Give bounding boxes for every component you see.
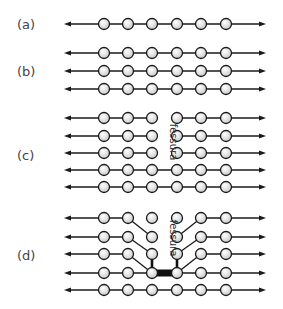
arrow-right-icon — [259, 271, 266, 276]
atom-circle — [99, 165, 110, 176]
atom-circle — [221, 113, 232, 124]
arrow-left-icon — [64, 151, 71, 156]
crack-label-d: fessura — [168, 220, 179, 257]
atom-circle — [99, 84, 110, 95]
panel-b — [64, 48, 266, 95]
atom-circle — [196, 84, 207, 95]
arrow-left-icon — [64, 22, 71, 27]
arrow-left-icon — [64, 51, 71, 56]
atom-circle — [221, 84, 232, 95]
atom-circle — [196, 148, 207, 159]
atom-circle — [147, 232, 158, 243]
arrow-right-icon — [259, 235, 266, 240]
arrow-left-icon — [64, 252, 71, 257]
arrow-right-icon — [259, 51, 266, 56]
arrow-left-icon — [64, 168, 71, 173]
arrow-left-icon — [64, 116, 71, 121]
atom-circle — [147, 66, 158, 77]
panel-d — [64, 213, 266, 296]
arrow-right-icon — [259, 288, 266, 293]
atom-circle — [99, 113, 110, 124]
atom-circle — [123, 84, 134, 95]
atom-circle — [196, 19, 207, 30]
atom-circle — [196, 232, 207, 243]
atom-circle — [147, 268, 158, 279]
atom-circle — [221, 232, 232, 243]
panel-c — [64, 113, 266, 193]
atom-circle — [123, 213, 134, 224]
atom-circle — [147, 84, 158, 95]
atom-circle — [123, 113, 134, 124]
atom-circle — [147, 113, 158, 124]
arrow-left-icon — [64, 185, 71, 190]
arrow-left-icon — [64, 235, 71, 240]
atom-circle — [147, 131, 158, 142]
arrow-right-icon — [259, 69, 266, 74]
atom-circle — [147, 48, 158, 59]
atom-circle — [99, 48, 110, 59]
atom-circle — [99, 249, 110, 260]
atom-circle — [196, 249, 207, 260]
atom-circle — [196, 165, 207, 176]
arrow-right-icon — [259, 151, 266, 156]
atom-circle — [123, 131, 134, 142]
arrow-right-icon — [259, 216, 266, 221]
atom-circle — [172, 165, 183, 176]
arrow-right-icon — [259, 168, 266, 173]
atom-circle — [172, 285, 183, 296]
atom-circle — [221, 165, 232, 176]
arrow-left-icon — [64, 134, 71, 139]
atom-circle — [221, 148, 232, 159]
arrow-left-icon — [64, 87, 71, 92]
arrow-right-icon — [259, 116, 266, 121]
atom-circle — [172, 19, 183, 30]
atom-circle — [147, 19, 158, 30]
atom-circle — [123, 48, 134, 59]
atom-circle — [147, 182, 158, 193]
atom-circle — [123, 66, 134, 77]
atom-circle — [99, 182, 110, 193]
atom-circle — [99, 285, 110, 296]
arrow-right-icon — [259, 252, 266, 257]
arrow-left-icon — [64, 216, 71, 221]
atom-circle — [99, 148, 110, 159]
atom-circle — [123, 165, 134, 176]
atom-circle — [123, 249, 134, 260]
atom-circle — [147, 249, 158, 260]
panel-a — [64, 19, 266, 30]
atom-circle — [123, 268, 134, 279]
arrow-right-icon — [259, 185, 266, 190]
atom-circle — [147, 165, 158, 176]
atom-circle — [221, 268, 232, 279]
arrow-right-icon — [259, 87, 266, 92]
panel-label-d: (d) — [17, 248, 35, 263]
atom-circle — [172, 113, 183, 124]
panel-label-c: (c) — [17, 148, 34, 163]
atom-circle — [123, 182, 134, 193]
atom-circle — [99, 268, 110, 279]
atom-circle — [99, 19, 110, 30]
atomic-crack-diagram: (a) (b) (c) (d) fessura fessura — [0, 0, 283, 309]
atom-circle — [99, 131, 110, 142]
atom-circle — [196, 113, 207, 124]
atom-circle — [221, 131, 232, 142]
panel-label-b: (b) — [17, 64, 35, 79]
atom-circle — [221, 19, 232, 30]
atom-circle — [147, 213, 158, 224]
atom-circle — [172, 66, 183, 77]
atom-circle — [172, 182, 183, 193]
atom-circle — [221, 213, 232, 224]
atom-circle — [123, 19, 134, 30]
atom-circle — [221, 48, 232, 59]
atom-circle — [172, 268, 183, 279]
crack-label-c: fessura — [168, 124, 179, 161]
arrow-left-icon — [64, 271, 71, 276]
atom-circle — [221, 66, 232, 77]
atom-circle — [196, 182, 207, 193]
atom-circle — [196, 131, 207, 142]
atom-circle — [196, 66, 207, 77]
atom-circle — [196, 48, 207, 59]
panel-label-a: (a) — [17, 17, 35, 32]
atom-circle — [99, 232, 110, 243]
atom-circle — [172, 48, 183, 59]
